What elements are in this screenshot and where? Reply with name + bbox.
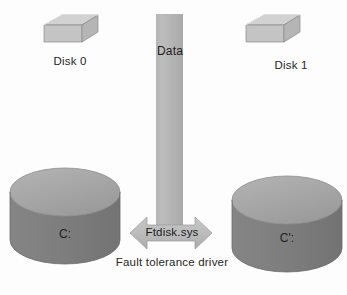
volume-c-label: C: (45, 227, 85, 241)
cylinder-icon (6, 166, 124, 271)
fault-tolerance-driver-caption: Fault tolerance driver (113, 255, 231, 269)
disk-0-label: Disk 0 (32, 55, 108, 67)
diagram-canvas: Data Ftdisk.sys Fault tolerance driver D… (0, 0, 347, 295)
ftdisk-sys-label: Ftdisk.sys (136, 226, 208, 238)
cylinder-icon (228, 174, 346, 279)
disk-pack-icon (238, 12, 304, 54)
disk-1-label: Disk 1 (253, 59, 329, 71)
data-flow-label: Data (148, 44, 192, 58)
volume-c-mirror-label: C': (267, 231, 307, 245)
disk-pack-icon (36, 12, 102, 54)
